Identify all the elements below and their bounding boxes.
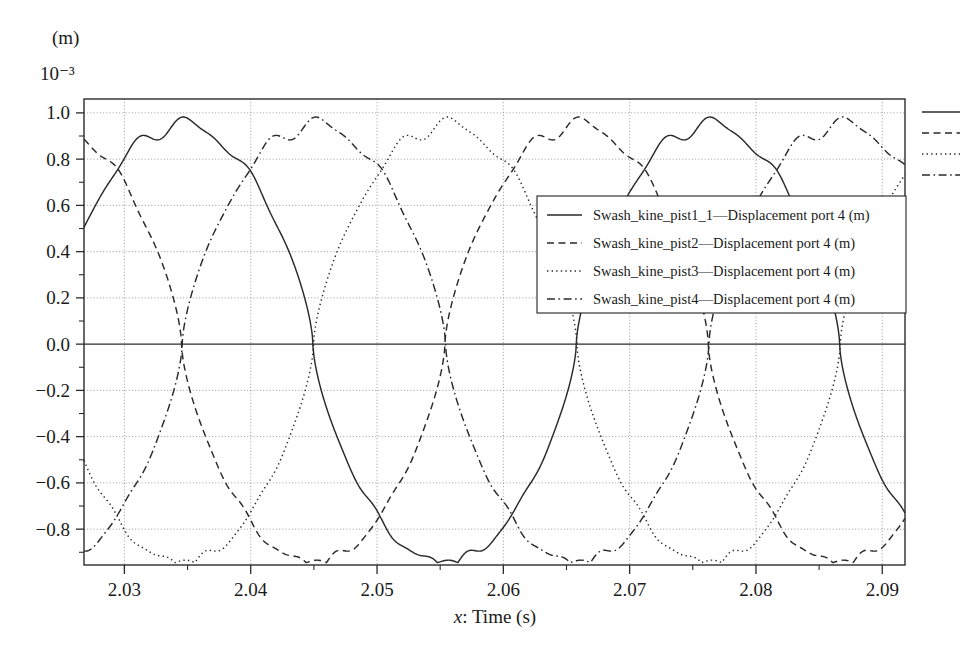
grid-layer [84,99,905,565]
y-tick-label: 0.6 [46,195,70,216]
series-line-1 [84,117,905,563]
x-axis-title: x: Time (s) [453,606,536,628]
y-tick-label: −0.4 [36,426,71,447]
y-unit-label: (m) [52,27,79,49]
y-exponent-label: 10⁻³ [40,63,75,84]
side-legend-swatches [922,112,960,175]
y-tick-labels: 1.00.80.60.40.20.0−0.2−0.4−0.6−0.8 [36,102,71,539]
x-tick-labels: 2.032.042.052.062.072.082.09 [108,579,899,600]
y-tick-label: 0.0 [46,334,70,355]
y-tick-label: −0.6 [36,472,70,493]
legend-label-3: Swash_kine_pist3—Displacement port 4 (m) [593,263,855,280]
x-tick-label: 2.04 [234,579,268,600]
y-tick-label: −0.2 [36,380,70,401]
x-tick-label: 2.03 [108,579,141,600]
plot-frame [84,99,905,565]
x-tick-label: 2.09 [866,579,899,600]
chart-canvas: (m) 10⁻³ 2.032.042.052.062.072.082.09 1.… [0,0,966,666]
y-tick-label: −0.8 [36,519,70,540]
series-layer [84,117,905,563]
y-tick-label: 0.4 [46,241,70,262]
x-tick-label: 2.06 [487,579,520,600]
series-line-3 [84,117,905,563]
series-line-2 [84,117,905,563]
x-tick-label: 2.05 [360,579,393,600]
y-tick-label: 0.8 [46,149,70,170]
chart-figure: (m) 10⁻³ 2.032.042.052.062.072.082.09 1.… [0,0,966,666]
legend-label-2: Swash_kine_pist2—Displacement port 4 (m) [593,235,855,252]
legend-label-4: Swash_kine_pist4—Displacement port 4 (m) [593,291,855,308]
x-tick-label: 2.08 [739,579,772,600]
x-tick-label: 2.07 [613,579,646,600]
y-tick-label: 0.2 [46,287,70,308]
legend-label-1: Swash_kine_pist1_1—Displacement port 4 (… [593,207,870,224]
series-line-4 [84,117,905,562]
chart-legend: Swash_kine_pist1_1—Displacement port 4 (… [537,196,906,313]
y-tick-label: 1.0 [46,102,70,123]
axis-ticks [76,113,882,574]
